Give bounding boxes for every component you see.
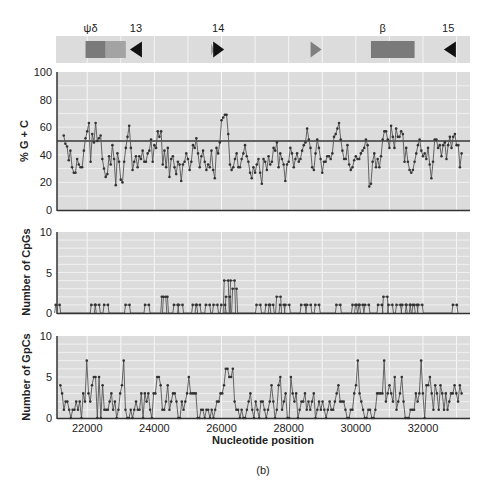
data-point bbox=[314, 304, 317, 307]
data-point bbox=[113, 158, 116, 161]
data-point bbox=[265, 304, 268, 307]
data-point bbox=[444, 141, 447, 144]
data-point bbox=[237, 409, 240, 412]
gpc-count-panel: 0510 Number of GpCs 22000240002600028000… bbox=[20, 330, 470, 434]
data-point bbox=[223, 384, 226, 387]
y-tick-label: 80 bbox=[40, 94, 52, 106]
data-point bbox=[85, 359, 88, 362]
data-point bbox=[284, 304, 287, 307]
data-point bbox=[166, 384, 169, 387]
data-point bbox=[67, 159, 70, 162]
data-point bbox=[90, 304, 93, 307]
data-point bbox=[302, 400, 305, 403]
data-point bbox=[217, 400, 220, 403]
data-point bbox=[200, 155, 203, 158]
data-point bbox=[220, 119, 223, 122]
data-point bbox=[455, 392, 458, 395]
data-point bbox=[304, 141, 307, 144]
data-point bbox=[266, 169, 269, 172]
data-point bbox=[195, 304, 198, 307]
data-point bbox=[321, 400, 324, 403]
data-point bbox=[78, 400, 81, 403]
data-point bbox=[180, 400, 183, 403]
data-point bbox=[286, 163, 289, 166]
data-point bbox=[259, 304, 262, 307]
data-point bbox=[155, 147, 158, 150]
y-tick-label: 10 bbox=[40, 330, 52, 342]
data-point bbox=[182, 163, 185, 166]
data-point bbox=[341, 149, 344, 152]
data-point bbox=[299, 158, 302, 161]
data-point bbox=[210, 409, 213, 412]
data-point bbox=[281, 409, 284, 412]
data-point bbox=[375, 166, 378, 169]
gene-map: ψδ1314β15 bbox=[56, 22, 470, 63]
data-point bbox=[81, 166, 84, 169]
x-axis-label: Nucleotide position bbox=[212, 434, 314, 446]
data-point bbox=[422, 392, 425, 395]
psi-delta-globin-left-box bbox=[86, 41, 106, 58]
data-point bbox=[121, 181, 124, 184]
data-point bbox=[272, 304, 275, 307]
data-point bbox=[199, 304, 202, 307]
data-point bbox=[184, 400, 187, 403]
data-point bbox=[381, 392, 384, 395]
data-point bbox=[291, 392, 294, 395]
data-point bbox=[83, 149, 86, 152]
data-point bbox=[452, 136, 455, 139]
data-point bbox=[276, 409, 279, 412]
data-point bbox=[124, 304, 127, 307]
data-point bbox=[128, 125, 131, 128]
data-point bbox=[276, 141, 279, 144]
data-point bbox=[272, 400, 275, 403]
data-point bbox=[376, 158, 379, 161]
data-point bbox=[413, 160, 416, 163]
data-point bbox=[306, 127, 309, 130]
data-point bbox=[240, 409, 243, 412]
data-point bbox=[427, 147, 430, 150]
y-tick-labels: 020406080100 bbox=[34, 66, 52, 216]
data-point bbox=[407, 160, 410, 163]
data-point bbox=[101, 158, 104, 161]
data-point bbox=[329, 158, 332, 161]
data-point bbox=[117, 409, 120, 412]
data-point bbox=[400, 130, 403, 133]
data-point bbox=[82, 392, 85, 395]
data-point bbox=[125, 147, 128, 150]
data-point bbox=[119, 178, 122, 181]
data-point bbox=[254, 171, 257, 174]
data-point bbox=[380, 155, 383, 158]
data-point bbox=[422, 155, 425, 158]
data-point bbox=[417, 144, 420, 147]
data-point bbox=[121, 384, 124, 387]
data-point bbox=[116, 152, 119, 155]
data-point bbox=[177, 160, 180, 163]
data-point bbox=[393, 376, 396, 379]
data-point bbox=[279, 304, 282, 307]
gene-label: 13 bbox=[130, 22, 142, 34]
data-point bbox=[439, 384, 442, 387]
data-point bbox=[459, 166, 462, 169]
data-point bbox=[430, 392, 433, 395]
data-point bbox=[364, 304, 367, 307]
data-point bbox=[420, 149, 423, 152]
figure: ψδ1314β15 020406080100 % G + C 0510 Numb… bbox=[0, 0, 492, 486]
data-point bbox=[271, 160, 274, 163]
data-point bbox=[311, 166, 314, 169]
data-point bbox=[131, 169, 134, 172]
data-point bbox=[350, 169, 353, 172]
data-point bbox=[435, 138, 438, 141]
data-point bbox=[381, 304, 384, 307]
data-point bbox=[202, 149, 205, 152]
data-point bbox=[208, 166, 211, 169]
data-point bbox=[339, 304, 342, 307]
data-point bbox=[229, 163, 232, 166]
data-point bbox=[101, 384, 104, 387]
data-point bbox=[412, 169, 415, 172]
y-tick-label: 10 bbox=[40, 226, 52, 238]
data-point bbox=[180, 180, 183, 183]
data-point bbox=[267, 155, 270, 158]
data-point bbox=[309, 409, 312, 412]
data-point bbox=[103, 304, 106, 307]
data-point bbox=[402, 133, 405, 136]
